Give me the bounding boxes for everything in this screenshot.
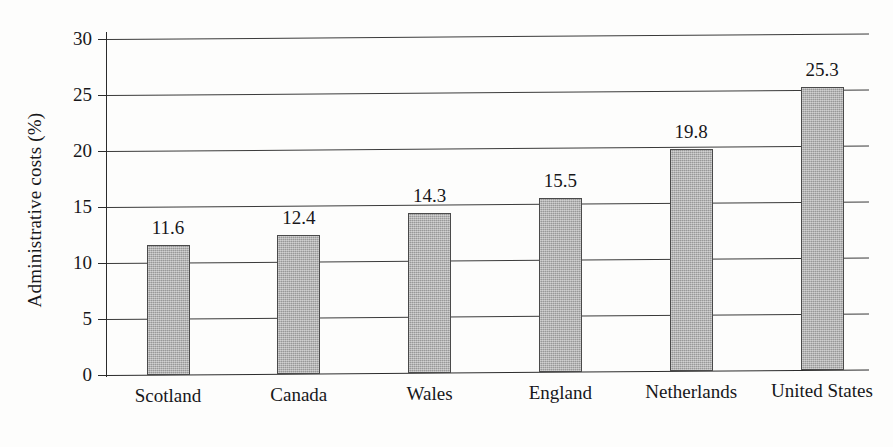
x-axis-line	[107, 369, 869, 376]
y-tick-label: 25	[46, 85, 92, 104]
x-category-label: Canada	[239, 384, 359, 406]
y-tick-mark	[98, 375, 107, 376]
y-tick-mark	[98, 151, 107, 152]
bar-value-label: 12.4	[254, 208, 344, 228]
y-tick-mark	[98, 263, 107, 264]
bar-wales	[408, 213, 451, 373]
x-category-label: Scotland	[108, 385, 228, 407]
bar-value-label: 11.6	[123, 218, 213, 238]
y-tick-mark	[98, 207, 107, 208]
gridline	[107, 313, 869, 320]
y-tick-mark	[98, 39, 107, 40]
y-tick-label: 20	[46, 141, 92, 160]
y-tick-mark	[98, 95, 107, 96]
gridline	[107, 145, 869, 152]
x-category-label: Netherlands	[631, 381, 751, 403]
bar-netherlands	[670, 149, 713, 371]
y-tick-label: 10	[46, 253, 92, 272]
y-tick-label: 0	[46, 365, 92, 384]
gridline	[107, 257, 869, 264]
bar-canada	[277, 235, 320, 374]
y-tick-label: 15	[46, 197, 92, 216]
plot-area	[107, 30, 869, 376]
y-tick-label: 30	[46, 29, 92, 48]
gridline	[107, 89, 869, 96]
gridline	[107, 201, 869, 208]
x-category-label: United States	[762, 380, 882, 402]
bar-value-label: 15.5	[515, 171, 605, 191]
bar-united-states	[801, 87, 844, 370]
y-tick-mark	[98, 319, 107, 320]
bar-england	[539, 198, 582, 372]
bar-value-label: 19.8	[646, 122, 736, 142]
y-axis-title: Administrative costs (%)	[22, 40, 48, 380]
bar-scotland	[147, 245, 190, 375]
bar-value-label: 14.3	[385, 186, 475, 206]
bar-value-label: 25.3	[777, 60, 867, 80]
bar-chart: Administrative costs (%) 05101520253011.…	[0, 0, 893, 447]
x-category-label: England	[500, 382, 620, 404]
x-category-label: Wales	[370, 383, 490, 405]
y-tick-label: 5	[46, 309, 92, 328]
gridline	[107, 33, 869, 40]
